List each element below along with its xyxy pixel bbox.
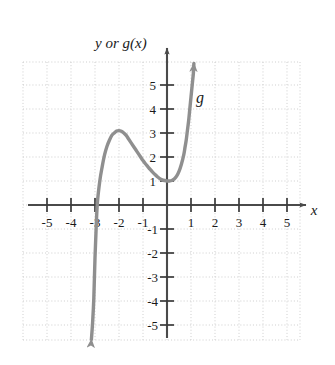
x-tick-label: -2: [114, 215, 125, 230]
y-tick-label: -3: [147, 270, 158, 285]
y-tick-label: 3: [150, 126, 157, 141]
x-tick-label: 1: [188, 215, 195, 230]
x-axis-label: x: [310, 202, 318, 218]
y-tick-label: -5: [147, 318, 158, 333]
x-tick-label: -5: [42, 215, 53, 230]
y-tick-label: 2: [150, 150, 157, 165]
graph-figure: -5 -4 -3 -2 -1 1 2 3 4 5 5 4 3 2 1 -1 -2…: [0, 0, 335, 365]
x-tick-label: 2: [212, 215, 219, 230]
curve-label-g: g: [196, 89, 204, 107]
grid-lines: [23, 62, 300, 340]
x-tick-label: -4: [66, 215, 77, 230]
x-tick-label: 5: [284, 215, 291, 230]
y-tick-label: -1: [147, 222, 158, 237]
y-tick-label: -2: [147, 246, 158, 261]
y-tick-label: -4: [147, 294, 158, 309]
x-tick-label: 4: [260, 215, 267, 230]
x-tick-labels: -5 -4 -3 -2 -1 1 2 3 4 5: [42, 215, 291, 230]
x-tick-label: 3: [236, 215, 243, 230]
axes: [28, 48, 306, 338]
y-tick-label: 5: [150, 78, 157, 93]
y-tick-label: 4: [150, 102, 157, 117]
coordinate-plane: -5 -4 -3 -2 -1 1 2 3 4 5 5 4 3 2 1 -1 -2…: [0, 0, 335, 365]
y-axis-label: y or g(x): [93, 35, 147, 52]
